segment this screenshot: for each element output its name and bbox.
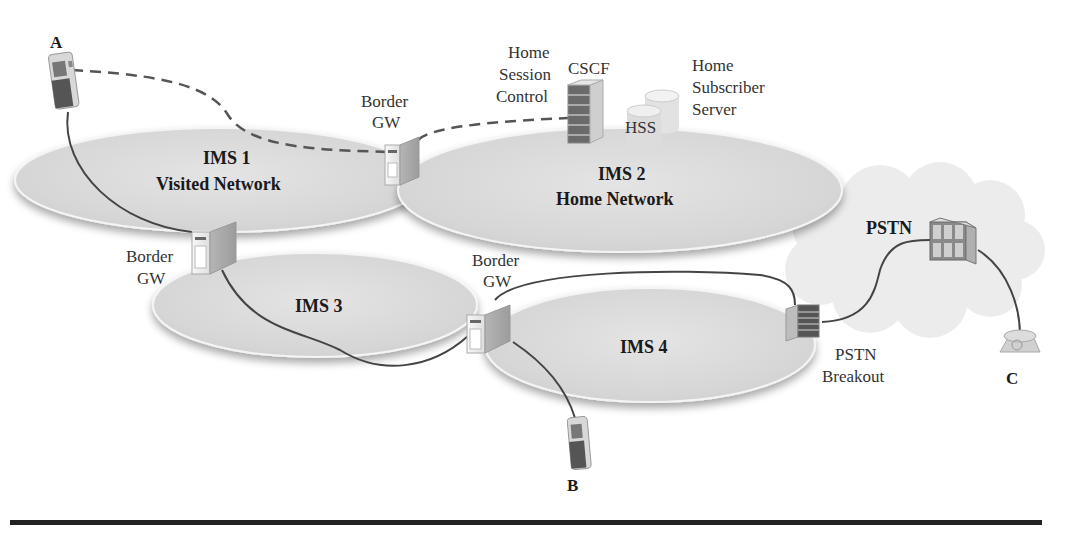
pstn-breakout-icon — [786, 305, 819, 341]
hss-desc-line2: Subscriber — [692, 78, 765, 97]
border-gw-1-line1: Border — [361, 92, 409, 111]
cscf-desc-line2: Session — [499, 65, 551, 84]
ims1-name: IMS 1 — [203, 148, 251, 168]
mobile-phone-b-icon — [567, 416, 591, 470]
bottom-rule — [10, 520, 1042, 525]
hss-desc-line1: Home — [692, 56, 734, 75]
border-gw-3-line2: GW — [483, 272, 512, 291]
cscf-desc-line1: Home — [508, 43, 550, 62]
pstn-switch-icon — [930, 218, 976, 264]
border-gw-2-line1: Border — [126, 247, 174, 266]
border-gw-ims1-ims2-icon — [385, 137, 419, 185]
hss-title: HSS — [625, 118, 656, 137]
pstn-breakout-line2: Breakout — [822, 367, 885, 386]
cscf-desc-line3: Control — [496, 87, 548, 106]
ims2-name: IMS 2 — [598, 164, 646, 184]
endpoint-a-label: A — [50, 33, 63, 52]
border-gw-2-line2: GW — [137, 269, 166, 288]
ims1-subtitle: Visited Network — [156, 174, 281, 194]
border-gw-1-line2: GW — [372, 113, 401, 132]
pstn-breakout-line1: PSTN — [835, 345, 877, 364]
ims2-subtitle: Home Network — [556, 189, 673, 209]
cscf-title: CSCF — [568, 59, 610, 78]
endpoint-b-label: B — [567, 476, 578, 495]
ims4-name: IMS 4 — [620, 337, 668, 357]
hss-desc-line3: Server — [692, 100, 737, 119]
landline-phone-c-icon — [1000, 330, 1040, 352]
cscf-server-icon — [568, 80, 603, 143]
border-gw-3-line1: Border — [472, 251, 520, 270]
pstn-name: PSTN — [866, 218, 912, 238]
mobile-phone-a-icon — [48, 52, 79, 110]
endpoint-c-label: C — [1006, 369, 1018, 388]
ims-network-diagram: A B C Border GW Border GW Border GW — [0, 0, 1078, 537]
ims3-name: IMS 3 — [295, 296, 343, 316]
